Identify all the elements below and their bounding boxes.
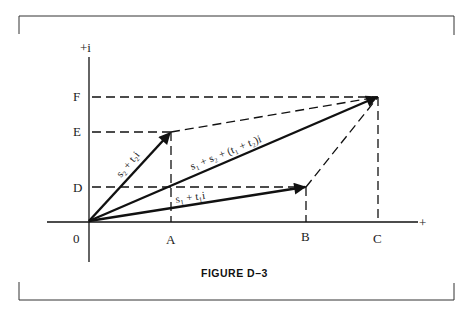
y-tick-e: E: [73, 124, 81, 139]
parallelogram-top-edge: [171, 97, 378, 132]
x-tick-b: B: [301, 229, 310, 244]
x-tick-c: C: [373, 231, 382, 246]
frame-top: [19, 16, 454, 35]
y-tick-d: D: [73, 180, 82, 195]
y-tick-f: F: [73, 89, 80, 104]
y-axis-plus-i-label: +i: [80, 40, 91, 55]
parallelogram-right-edge: [306, 97, 378, 187]
x-axis-plus-label: +: [419, 215, 426, 230]
figure-d3-diagram: +i + 0 F E D A B C s₂ + t₂i s₁ + t₁i s₁ …: [0, 0, 466, 316]
vector-label-s2-t2: s₂ + t₂i: [113, 149, 141, 180]
figure-caption: FIGURE D–3: [201, 267, 268, 279]
vector-label-sum: s₁ + s₂ + (t₁ + t₂)i: [188, 132, 263, 172]
x-tick-a: A: [166, 232, 176, 247]
frame-bottom: [19, 282, 454, 300]
origin-label: 0: [73, 231, 80, 246]
vector-s2-t2: [89, 133, 170, 221]
